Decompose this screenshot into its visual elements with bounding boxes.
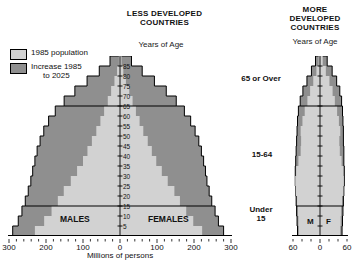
left-chart-title-line1: LESS DEVELOPED [92,9,237,18]
right-population-pyramid [292,56,348,236]
right-pyramid-svg [292,56,348,236]
right-chart-title-line1: MORE [278,5,352,14]
mdc-xaxis-label-60: 60 [343,243,352,252]
age-tick-35: 35 [123,163,130,170]
age-group-label-under-15-line2: 15 [238,214,284,223]
age-tick-15: 15 [123,203,130,210]
age-tick-55: 55 [123,123,130,130]
age-tick-30: 30 [123,173,130,180]
age-group-label-under-15-line1: Under [238,205,284,214]
age-tick-labels: 510152025303540455055606570758085 [120,56,142,236]
population-pyramid-figure: LESS DEVELOPED COUNTRIES MORE DEVELOPED … [0,0,355,267]
age-tick-85: 85 [123,63,130,70]
age-tick-25: 25 [123,183,130,190]
left-chart-units-label: Millions of persons [8,251,232,260]
right-chart-x-axis: 60060 [292,239,348,250]
age-tick-50: 50 [123,133,130,140]
right-chart-axis-title: Years of Age [278,37,352,46]
age-tick-80: 80 [123,73,130,80]
age-tick-20: 20 [123,193,130,200]
right-chart-title-line3: COUNTRIES [278,23,352,32]
age-tick-70: 70 [123,93,130,100]
left-chart-x-axis: 3002001000100200300 [8,239,232,250]
age-group-label-under-15: Under 15 [238,205,284,223]
age-group-label-15-64: 15-64 [240,150,284,159]
right-females-label: F [326,217,331,226]
right-pyramid-plot [292,56,348,236]
age-tick-40: 40 [123,153,130,160]
age-tick-65: 65 [123,103,130,110]
left-chart-title: LESS DEVELOPED COUNTRIES [92,9,237,27]
mdc-xaxis-label-0: 0 [318,243,322,252]
age-group-label-65-or-over: 65 or Over [232,74,290,83]
age-tick-75: 75 [123,83,130,90]
age-tick-60: 60 [123,113,130,120]
left-chart-axis-title: Years of Age [117,40,205,49]
mdc-xaxis-label-60: 60 [289,243,298,252]
age-tick-10: 10 [123,213,130,220]
age-tick-45: 45 [123,143,130,150]
right-chart-title: MORE DEVELOPED COUNTRIES [278,5,352,32]
left-chart-title-line2: COUNTRIES [92,18,237,27]
age-tick-5: 5 [123,223,127,230]
males-label: MALES [60,214,90,224]
right-males-label: M [307,217,314,226]
females-label: FEMALES [148,214,189,224]
right-chart-title-line2: DEVELOPED [278,14,352,23]
